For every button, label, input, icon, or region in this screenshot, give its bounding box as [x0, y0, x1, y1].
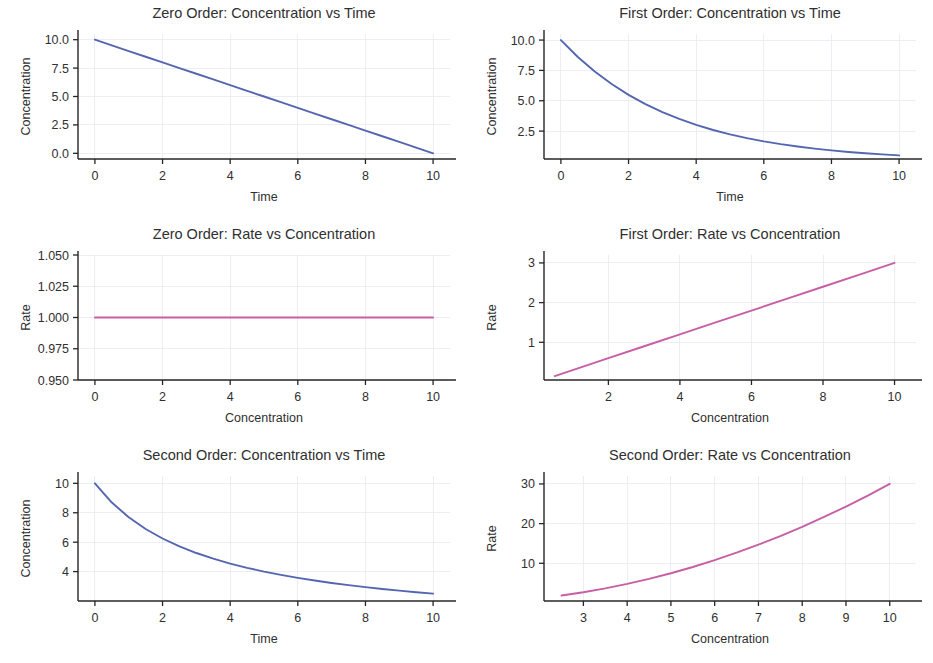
x-tick-label: 0: [91, 169, 98, 183]
y-tick-label: 8: [62, 506, 69, 520]
plot-canvas: 102030345678910Second Order: Rate vs Con…: [466, 442, 932, 663]
axis-ticks: 468100246810: [55, 477, 440, 625]
plot-canvas: 468100246810Second Order: Concentration …: [0, 442, 466, 663]
x-tick-label: 2: [159, 390, 166, 404]
subplot-zero-order-rate-vs-conc: 0.9500.9751.0001.0251.0500246810Zero Ord…: [0, 221, 466, 442]
y-tick-label: 2: [528, 296, 535, 310]
plot-canvas: 0.02.55.07.510.00246810Zero Order: Conce…: [0, 0, 466, 221]
series-line: [562, 484, 890, 596]
y-axis-label: Rate: [485, 304, 499, 330]
x-tick-label: 0: [91, 390, 98, 404]
plot-canvas: 123246810First Order: Rate vs Concentrat…: [466, 221, 932, 442]
y-tick-label: 0.0: [52, 147, 69, 161]
y-tick-label: 1.000: [38, 311, 69, 325]
plot-canvas: 2.55.07.510.00246810First Order: Concent…: [466, 0, 932, 221]
x-tick-label: 6: [748, 390, 755, 404]
x-tick-label: 6: [711, 611, 718, 625]
y-tick-label: 1: [528, 336, 535, 350]
chart-title: First Order: Concentration vs Time: [619, 5, 841, 21]
x-tick-label: 6: [760, 169, 767, 183]
x-tick-label: 5: [667, 611, 674, 625]
y-axis-label: Rate: [485, 525, 499, 551]
y-tick-label: 1.025: [38, 280, 69, 294]
x-tick-label: 8: [362, 169, 369, 183]
x-tick-label: 4: [227, 390, 234, 404]
series-line: [561, 40, 899, 155]
chart-title: Zero Order: Concentration vs Time: [152, 5, 375, 21]
kinetics-figure: 0.02.55.07.510.00246810Zero Order: Conce…: [0, 0, 933, 663]
x-axis-label: Concentration: [691, 632, 769, 646]
gridlines: [544, 34, 916, 159]
x-tick-label: 4: [693, 169, 700, 183]
subplot-first-order-conc-vs-time: 2.55.07.510.00246810First Order: Concent…: [466, 0, 932, 221]
y-axis-label: Rate: [19, 304, 33, 330]
x-tick-label: 2: [159, 169, 166, 183]
axis-ticks: 0.02.55.07.510.00246810: [45, 33, 440, 183]
x-tick-label: 10: [892, 169, 906, 183]
x-tick-label: 8: [820, 390, 827, 404]
x-tick-label: 4: [676, 390, 683, 404]
x-tick-label: 10: [426, 169, 440, 183]
x-tick-label: 6: [294, 169, 301, 183]
x-tick-label: 4: [624, 611, 631, 625]
x-axis-label: Time: [250, 190, 277, 204]
axis-spines: [78, 472, 456, 601]
x-axis-label: Time: [250, 632, 277, 646]
axis-spines: [78, 251, 456, 380]
axis-spines: [544, 30, 922, 159]
y-axis-label: Concentration: [485, 58, 499, 136]
chart-title: Zero Order: Rate vs Concentration: [153, 226, 375, 242]
x-tick-label: 7: [755, 611, 762, 625]
y-tick-label: 10: [521, 557, 535, 571]
x-tick-label: 6: [294, 611, 301, 625]
y-tick-label: 7.5: [518, 64, 535, 78]
y-axis-label: Concentration: [19, 58, 33, 136]
series-line: [555, 263, 895, 376]
subplot-zero-order-conc-vs-time: 0.02.55.07.510.00246810Zero Order: Conce…: [0, 0, 466, 221]
x-axis-label: Concentration: [225, 411, 303, 425]
y-tick-label: 10.0: [45, 33, 69, 47]
x-tick-label: 9: [842, 611, 849, 625]
chart-title: Second Order: Rate vs Concentration: [609, 447, 851, 463]
x-tick-label: 10: [883, 611, 897, 625]
y-tick-label: 5.0: [518, 94, 535, 108]
y-tick-label: 2.5: [518, 125, 535, 139]
y-tick-label: 7.5: [52, 62, 69, 76]
x-tick-label: 10: [426, 390, 440, 404]
x-tick-label: 10: [426, 611, 440, 625]
x-tick-label: 2: [159, 611, 166, 625]
chart-title: First Order: Rate vs Concentration: [620, 226, 841, 242]
subplot-second-order-rate-vs-conc: 102030345678910Second Order: Rate vs Con…: [466, 442, 932, 663]
x-tick-label: 10: [888, 390, 902, 404]
x-tick-label: 2: [625, 169, 632, 183]
y-tick-label: 2.5: [52, 118, 69, 132]
x-axis-label: Concentration: [691, 411, 769, 425]
y-tick-label: 30: [521, 477, 535, 491]
x-tick-label: 0: [557, 169, 564, 183]
plot-canvas: 0.9500.9751.0001.0251.0500246810Zero Ord…: [0, 221, 466, 442]
y-tick-label: 20: [521, 517, 535, 531]
y-tick-label: 0.950: [38, 374, 69, 388]
x-tick-label: 4: [227, 611, 234, 625]
x-tick-label: 8: [828, 169, 835, 183]
x-tick-label: 8: [362, 390, 369, 404]
x-tick-label: 2: [605, 390, 612, 404]
axis-ticks: 2.55.07.510.00246810: [511, 34, 906, 183]
x-tick-label: 8: [799, 611, 806, 625]
gridlines: [78, 476, 450, 601]
chart-title: Second Order: Concentration vs Time: [143, 447, 386, 463]
y-tick-label: 1.050: [38, 249, 69, 263]
subplot-first-order-rate-vs-conc: 123246810First Order: Rate vs Concentrat…: [466, 221, 932, 442]
y-tick-label: 6: [62, 536, 69, 550]
x-tick-label: 8: [362, 611, 369, 625]
y-tick-label: 10: [55, 477, 69, 491]
y-tick-label: 10.0: [511, 34, 535, 48]
y-tick-label: 5.0: [52, 90, 69, 104]
gridlines: [544, 476, 916, 601]
y-axis-label: Concentration: [19, 500, 33, 578]
x-tick-label: 0: [91, 611, 98, 625]
y-tick-label: 4: [62, 565, 69, 579]
x-axis-label: Time: [716, 190, 743, 204]
axis-spines: [78, 30, 456, 159]
y-tick-label: 0.975: [38, 342, 69, 356]
